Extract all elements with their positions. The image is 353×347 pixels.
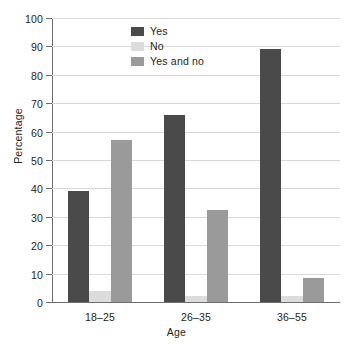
bar-yes-and-no-26–35	[207, 210, 228, 302]
legend-label: No	[150, 41, 164, 52]
legend-swatch-icon	[131, 57, 144, 66]
y-axis-tick-label: 50	[31, 155, 43, 167]
gridline	[52, 274, 340, 275]
gridline	[52, 75, 340, 76]
y-axis-tick-label: 10	[31, 269, 43, 281]
y-axis-tick	[46, 217, 52, 218]
legend-swatch-icon	[131, 27, 144, 36]
y-axis-tick	[46, 245, 52, 246]
chart-legend: YesNoYes and no	[131, 25, 204, 68]
y-axis-tick	[46, 132, 52, 133]
y-axis-tick	[46, 274, 52, 275]
x-axis-tick-label: 18–25	[85, 311, 115, 323]
y-axis-tick	[46, 18, 52, 19]
gridline	[52, 245, 340, 246]
y-axis-tick-label: 90	[31, 41, 43, 53]
x-axis-title: Age	[0, 326, 353, 338]
y-axis-tick-label: 100	[25, 13, 43, 25]
y-axis-tick-label: 80	[31, 70, 43, 82]
legend-item: Yes and no	[131, 55, 204, 68]
gridline	[52, 188, 340, 189]
y-axis-tick-label: 70	[31, 98, 43, 110]
y-axis-tick-label: 40	[31, 183, 43, 195]
gridline	[52, 160, 340, 161]
bar-no-36–55	[281, 296, 302, 302]
legend-item: Yes	[131, 25, 204, 38]
x-axis-tick-label: 26–35	[181, 311, 211, 323]
legend-swatch-icon	[131, 42, 144, 51]
bar-yes-and-no-36–55	[303, 278, 324, 302]
bar-yes-26–35	[164, 115, 185, 302]
y-axis-tick	[46, 160, 52, 161]
y-axis-tick	[46, 103, 52, 104]
legend-item: No	[131, 40, 204, 53]
bar-yes-18–25	[68, 191, 89, 302]
bar-no-26–35	[185, 296, 206, 302]
y-axis-tick-label: 0	[37, 297, 43, 309]
y-axis-tick	[46, 302, 52, 303]
gridline	[52, 103, 340, 104]
y-axis-tick	[46, 46, 52, 47]
y-axis-tick-label: 60	[31, 127, 43, 139]
bar-no-18–25	[89, 291, 110, 302]
gridline	[52, 217, 340, 218]
y-axis-tick	[46, 75, 52, 76]
x-axis-spine	[52, 302, 340, 303]
y-axis-tick-label: 20	[31, 240, 43, 252]
y-axis-tick	[46, 188, 52, 189]
y-axis-title: Percentage	[12, 76, 24, 196]
y-axis-tick-label: 30	[31, 212, 43, 224]
legend-label: Yes	[150, 26, 168, 37]
bar-yes-and-no-18–25	[111, 140, 132, 302]
bar-yes-36–55	[260, 49, 281, 302]
x-axis-tick-label: 36–55	[277, 311, 307, 323]
bar-chart: Percentage 010203040506070809010018–2526…	[0, 0, 353, 347]
gridline	[52, 132, 340, 133]
gridline	[52, 18, 340, 19]
legend-label: Yes and no	[150, 56, 204, 67]
